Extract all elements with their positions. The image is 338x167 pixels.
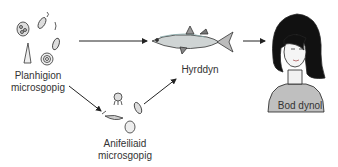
fish-icon — [152, 26, 233, 54]
fish-label: Hyrddyn — [170, 64, 230, 76]
phytoplankton-icon — [17, 12, 61, 65]
phytoplankton-label: Planhigion microsgopig — [0, 70, 76, 94]
human-icon — [268, 14, 325, 112]
zooplankton-icon — [102, 93, 143, 133]
zooplankton-label: Anifeiliaid microsgopig — [90, 138, 160, 162]
zooplankton-label-line2: microsgopig — [90, 150, 160, 162]
human-label: Bod dynol — [270, 100, 330, 112]
arrow-zooplankton-to-fish — [144, 79, 176, 104]
zooplankton-label-line1: Anifeiliaid — [90, 138, 160, 150]
phytoplankton-label-line2: microsgopig — [0, 82, 76, 94]
phytoplankton-label-line1: Planhigion — [0, 70, 76, 82]
